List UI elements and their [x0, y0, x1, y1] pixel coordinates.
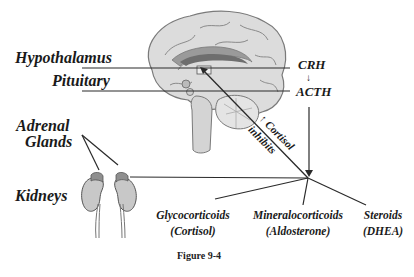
output-steroids: Steroids (DHEA) [352, 210, 414, 237]
brain-illustration [148, 11, 285, 153]
output-mineralocorticoids: Mineralocorticoids (Aldosterone) [238, 210, 358, 237]
output-name: Steroids [352, 210, 414, 222]
output-example: (DHEA) [352, 226, 414, 238]
glycocorticoids-line [215, 178, 308, 199]
output-name: Glycocorticoids [143, 210, 243, 222]
figure-caption: Figure 9-4 [177, 250, 221, 261]
adrenal-to-output-line [130, 177, 308, 178]
mineralocorticoids-line [303, 178, 308, 205]
output-name: Mineralocorticoids [238, 210, 358, 222]
adrenal-pointer-left [82, 135, 99, 170]
hypothalamus-label: Hypothalamus [15, 50, 112, 66]
pituitary-label: Pituitary [52, 73, 110, 89]
steroids-line [308, 178, 366, 205]
acth-label: ACTH [296, 85, 331, 98]
adrenal-label-line2: Glands [25, 134, 72, 150]
crh-to-acth-arrow: ↓ [306, 73, 311, 83]
kidneys-label: Kidneys [15, 188, 67, 204]
output-example: (Cortisol) [143, 226, 243, 238]
output-example: (Aldosterone) [238, 226, 358, 238]
crh-label: CRH [298, 58, 325, 71]
output-glycocorticoids: Glycocorticoids (Cortisol) [143, 210, 243, 237]
adrenal-label-line1: Adrenal [16, 118, 69, 134]
adrenal-pointer-right [82, 135, 118, 165]
hpa-axis-diagram: Hypothalamus Pituitary Adrenal Glands Ki… [0, 0, 414, 277]
kidneys-illustration [82, 172, 137, 238]
